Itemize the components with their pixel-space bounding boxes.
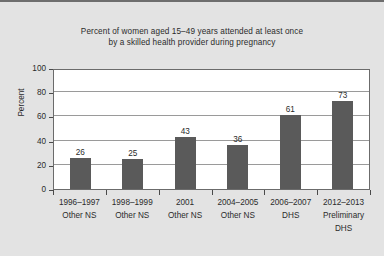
bar-value-label: 43 [159,127,212,136]
x-tick-mark [212,190,213,195]
bar [227,145,248,189]
x-axis-label-line: Preliminary [317,209,370,222]
x-tick-mark [317,190,318,195]
bar [122,159,143,189]
y-tick-label: 20 [22,162,46,170]
bar-series: 262543366173 [54,70,369,189]
chart-title: Percent of women aged 15–49 years attend… [0,26,384,48]
x-axis-label-line: Other NS [159,209,212,222]
x-axis-label-line: 2001 [159,196,212,209]
y-tick-mark [49,166,53,167]
bar-cell: 43 [159,70,212,189]
x-axis-label-line: 2006–2007 [264,196,317,209]
bar-value-label: 26 [54,148,107,157]
bar-value-label: 73 [317,91,370,100]
x-tick-mark [264,190,265,195]
x-axis-label-line: 2012–2013 [317,196,370,209]
bar [280,115,301,189]
bar-cell: 73 [317,70,370,189]
x-axis-label: 2001Other NS [159,196,212,235]
y-tick-mark [49,190,53,191]
x-axis-label-line: DHS [264,209,317,222]
x-axis-ticks [53,190,370,195]
plot-area: 262543366173 [53,69,370,190]
x-tick-mark [106,190,107,195]
y-tick-label: 80 [22,89,46,97]
x-axis-label-line: 2004–2005 [211,196,264,209]
bar-value-label: 61 [264,105,317,114]
chart-figure: Percent of women aged 15–49 years attend… [0,0,384,256]
bar [332,101,353,189]
y-tick-mark [49,142,53,143]
y-tick-mark [49,93,53,94]
x-axis-label: 1996–1997Other NS [53,196,106,235]
x-axis-label-line: Other NS [211,209,264,222]
bar [70,158,91,189]
x-axis-label-line: DHS [317,222,370,235]
bar-value-label: 25 [107,149,160,158]
bar [175,137,196,189]
y-tick-mark [49,69,53,70]
x-axis-labels: 1996–1997Other NS1998–1999Other NS2001Ot… [53,196,370,235]
x-axis-label-line: 1998–1999 [106,196,159,209]
bar-cell: 61 [264,70,317,189]
chart-title-line-1: Percent of women aged 15–49 years attend… [0,26,384,37]
x-tick-mark [159,190,160,195]
x-axis-label: 2006–2007DHS [264,196,317,235]
bar-cell: 26 [54,70,107,189]
bar-value-label: 36 [212,135,265,144]
y-tick-label: 100 [22,65,46,73]
x-axis-label-line: Other NS [53,209,106,222]
x-axis-label: 1998–1999Other NS [106,196,159,235]
chart-title-line-2: by a skilled health provider during preg… [0,37,384,48]
y-tick-label: 0 [22,186,46,194]
y-tick-label: 40 [22,138,46,146]
y-tick-label: 60 [22,113,46,121]
x-tick-mark [370,190,371,195]
x-axis-label-line: 1996–1997 [53,196,106,209]
x-axis-label-line: Other NS [106,209,159,222]
x-axis-label: 2012–2013PreliminaryDHS [317,196,370,235]
x-tick-mark [53,190,54,195]
y-tick-mark [49,117,53,118]
y-axis-label: Percent [17,73,26,133]
bar-cell: 25 [107,70,160,189]
bar-cell: 36 [212,70,265,189]
x-axis-label: 2004–2005Other NS [211,196,264,235]
